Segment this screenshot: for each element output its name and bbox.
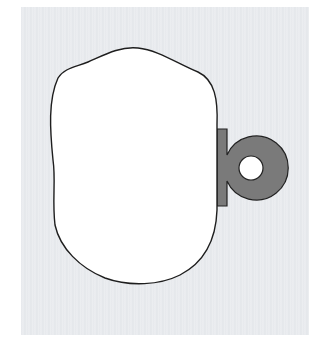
figure-canvas [0,0,326,355]
tab-ring-icon [217,129,288,206]
blob-shape [51,48,218,284]
